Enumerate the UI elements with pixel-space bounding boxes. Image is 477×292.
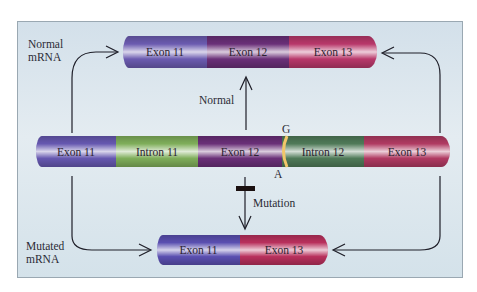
splice-site-marker xyxy=(284,136,288,167)
mutated-mrna-bar: Exon 11 Exon 13 xyxy=(157,235,328,265)
mutated-exon-13: Exon 13 xyxy=(240,235,328,265)
mutated-exon-11: Exon 11 xyxy=(157,235,240,265)
